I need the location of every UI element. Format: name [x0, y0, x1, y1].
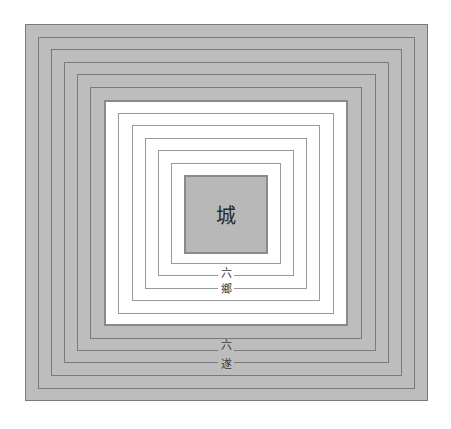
inner-zone-label-2: 鄉 [218, 284, 234, 298]
city-label: 城 [216, 200, 236, 229]
outer-zone-label-2: 遂 [218, 359, 234, 373]
outer-zone-label-1: 六 [218, 340, 234, 354]
city-core: 城 [184, 175, 268, 254]
inner-zone-label-1: 六 [218, 268, 234, 282]
